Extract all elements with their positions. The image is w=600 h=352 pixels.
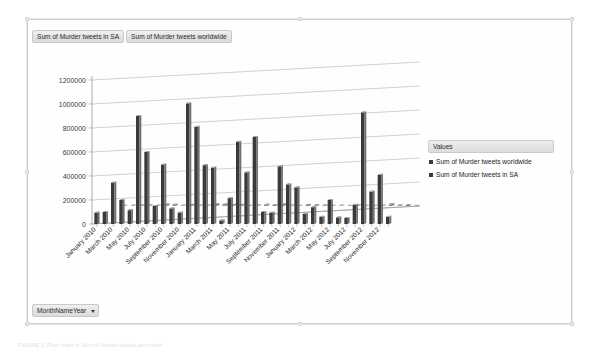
chart-bar[interactable] [278, 166, 282, 224]
chart-bar[interactable] [264, 205, 268, 206]
chart-canvas: 020000040000060000080000010000001200000J… [36, 42, 456, 297]
chart-bar[interactable] [353, 205, 357, 224]
y-axis-tick-label: 1200000 [59, 77, 86, 84]
chart-bar[interactable] [397, 205, 401, 206]
screenshot-root: Sum of Murder tweets in SASum of Murder … [0, 0, 600, 352]
chart-bar-side [381, 174, 383, 224]
resize-handle-middle-left[interactable] [25, 170, 29, 174]
y-axis-tick-label: 800000 [63, 125, 86, 132]
chart-bar-side [348, 217, 350, 224]
chevron-down-icon [91, 310, 95, 313]
chart-bar[interactable] [203, 165, 207, 224]
resize-handle-top-middle[interactable] [298, 17, 302, 21]
field-button-monthnameyear[interactable]: MonthNameYear [32, 304, 99, 317]
chart-bar[interactable] [311, 207, 315, 224]
y-axis-tick-label: 1000000 [59, 101, 86, 108]
chart-bar[interactable] [94, 213, 98, 224]
resize-handle-bottom-middle[interactable] [298, 322, 302, 326]
chart-bar-side [331, 199, 333, 224]
chart-bar-side [231, 197, 233, 224]
chart-bar[interactable] [119, 200, 123, 224]
chart-bar[interactable] [319, 217, 323, 224]
chart-bar[interactable] [328, 200, 332, 224]
chart-bar-side [140, 115, 142, 224]
chart-bar[interactable] [286, 184, 290, 224]
pivot-field-buttons-bottom: MonthNameYear [32, 299, 99, 317]
chart-bar-side [340, 216, 342, 224]
chart-bar[interactable] [186, 103, 190, 224]
chart-bar-side [98, 212, 100, 225]
chart-bar[interactable] [369, 192, 373, 224]
chart-bar[interactable] [361, 112, 365, 224]
chart-bar-side [248, 171, 250, 224]
chart-bar-side [281, 165, 283, 224]
legend-item-worldwide[interactable]: Sum of Murder tweets worldwide [428, 158, 563, 166]
chart-bar[interactable] [294, 187, 298, 224]
resize-handle-top-left[interactable] [25, 17, 29, 21]
chart-bar[interactable] [336, 217, 340, 224]
chart-bar[interactable] [144, 152, 148, 224]
chart-bar[interactable] [128, 210, 131, 224]
chart-bar[interactable] [314, 205, 318, 206]
chart-bar-side [265, 211, 267, 224]
resize-handle-bottom-right[interactable] [570, 322, 574, 326]
chart-bar[interactable] [389, 204, 393, 206]
legend-swatch-worldwide [429, 160, 433, 164]
chart-bar-side [365, 111, 367, 224]
chart-bar[interactable] [253, 137, 257, 224]
legend-item-sa[interactable]: Sum of Murder tweets in SA [428, 171, 563, 179]
chart-bar[interactable] [269, 213, 273, 224]
chart-bar[interactable] [161, 165, 165, 224]
chart-bar[interactable] [103, 212, 107, 224]
chart-bar[interactable] [306, 205, 310, 206]
chart-bar[interactable] [406, 205, 410, 206]
chart-bar-side [156, 205, 158, 224]
chart-bar-side [173, 207, 175, 224]
chart-bar-side [148, 151, 150, 224]
chart-bar-side [215, 167, 217, 225]
chart-bar[interactable] [303, 214, 307, 224]
chart-bar-side [106, 211, 108, 224]
figure-caption: FIGURE 1: Pivot chart of Sum of Murder t… [18, 341, 438, 350]
chart-bar[interactable] [344, 218, 348, 224]
chart-bar-side [390, 216, 392, 224]
resize-handle-bottom-left[interactable] [25, 322, 29, 326]
chart-bar-side [315, 206, 317, 224]
chart-bar[interactable] [178, 213, 182, 224]
chart-bar[interactable] [111, 183, 115, 224]
chart-bar[interactable] [169, 208, 173, 224]
chart-bar[interactable] [219, 220, 223, 224]
pivot-chart-object[interactable]: Sum of Murder tweets in SASum of Murder … [27, 19, 572, 324]
legend-label-sa: Sum of Murder tweets in SA [436, 171, 518, 179]
chart-bar[interactable] [322, 205, 326, 206]
chart-bar[interactable] [378, 175, 382, 224]
chart-bar[interactable] [172, 205, 176, 206]
chart-plot-area: 020000040000060000080000010000001200000J… [36, 42, 456, 297]
chart-bar[interactable] [261, 212, 265, 224]
chart-bar[interactable] [236, 142, 240, 224]
chart-bar-side [373, 191, 375, 225]
chart-bar-side [190, 102, 192, 224]
chart-bar-side [181, 212, 183, 225]
y-axis-tick-label: 200000 [63, 197, 86, 204]
resize-handle-top-right[interactable] [570, 17, 574, 21]
chart-bar[interactable] [153, 206, 157, 224]
chart-bar-side [273, 212, 275, 225]
chart-bar[interactable] [228, 198, 232, 224]
chart-bar-side [298, 186, 300, 224]
y-axis-tick-label: 0 [82, 221, 86, 228]
chart-bar[interactable] [272, 205, 276, 206]
chart-bar[interactable] [194, 127, 198, 224]
chart-bar[interactable] [211, 168, 215, 224]
y-axis-tick-label: 400000 [63, 173, 86, 180]
y-axis-tick-label: 600000 [63, 149, 86, 156]
chart-bar[interactable] [244, 172, 248, 224]
chart-bar[interactable] [386, 217, 390, 224]
chart-bar-side [323, 216, 325, 224]
chart-bar[interactable] [222, 204, 226, 206]
chart-bar-side [206, 164, 208, 224]
chart-bar-side [123, 199, 125, 224]
resize-handle-middle-right[interactable] [570, 170, 574, 174]
legend-swatch-sa [429, 173, 433, 177]
chart-bar[interactable] [136, 116, 140, 224]
